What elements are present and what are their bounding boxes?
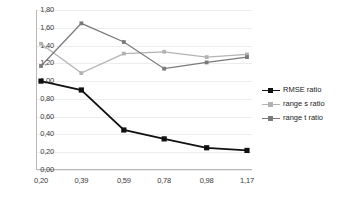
data-point-marker	[162, 67, 166, 71]
series-line	[41, 81, 247, 150]
data-point-marker	[205, 61, 209, 65]
series-line	[41, 44, 247, 73]
data-point-marker	[39, 64, 43, 68]
legend-square-icon	[268, 88, 273, 93]
data-point-marker	[79, 71, 83, 75]
legend-square-icon	[268, 102, 273, 107]
legend-item[interactable]: range s ratio	[262, 100, 325, 108]
series-range-s-ratio	[39, 42, 249, 75]
legend-item[interactable]: RMSE ratio	[262, 86, 325, 94]
legend-item[interactable]: range t ratio	[262, 114, 325, 122]
chart-legend: RMSE ratiorange s ratiorange t ratio	[262, 86, 325, 122]
data-point-marker	[162, 50, 166, 54]
data-point-marker	[39, 42, 43, 46]
data-point-marker	[122, 40, 126, 44]
data-point-marker	[122, 52, 126, 56]
data-point-marker	[205, 55, 209, 59]
series-rmse-ratio	[38, 79, 249, 154]
data-point-marker	[79, 21, 83, 25]
data-point-marker	[38, 79, 43, 84]
data-point-marker	[204, 145, 209, 150]
data-point-marker	[79, 87, 84, 92]
data-point-marker	[121, 127, 126, 132]
chart-container: 0,000,200,400,600,801,001,201,401,601,80…	[0, 0, 348, 208]
legend-label: range s ratio	[283, 100, 325, 108]
legend-label: RMSE ratio	[283, 86, 321, 94]
legend-marker-icon	[262, 87, 280, 94]
data-point-marker	[162, 136, 167, 141]
data-point-marker	[245, 55, 249, 59]
series-line	[41, 23, 247, 68]
legend-square-icon	[268, 116, 273, 121]
data-point-marker	[244, 148, 249, 153]
legend-marker-icon	[262, 101, 280, 108]
legend-label: range t ratio	[283, 114, 323, 122]
series-range-t-ratio	[39, 21, 249, 70]
legend-marker-icon	[262, 115, 280, 122]
